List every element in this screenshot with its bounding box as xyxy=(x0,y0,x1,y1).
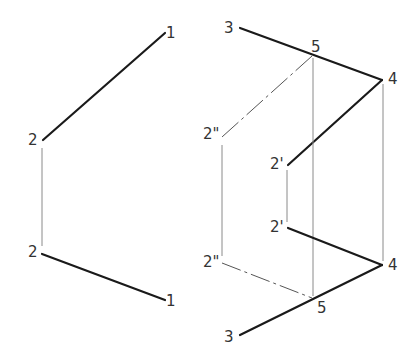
line-2-1-bottom xyxy=(42,254,165,300)
label-4-bottom: 4 xyxy=(388,258,398,273)
label-2-prime-top: 2' xyxy=(270,157,284,172)
label-2-double-prime-bottom: 2" xyxy=(203,255,219,270)
label-5-top: 5 xyxy=(311,40,321,55)
hidden-line-2pp-5-bottom xyxy=(222,263,312,298)
line-2p-4-bottom xyxy=(288,228,382,265)
label-1-top: 1 xyxy=(166,26,176,41)
line-4-5-3-bottom xyxy=(240,265,382,335)
line-4-2p-top xyxy=(288,80,382,165)
line-2-1-top xyxy=(43,33,165,140)
label-2-top: 2 xyxy=(28,133,38,148)
label-2-double-prime-top: 2" xyxy=(203,127,219,142)
label-2-prime-bottom: 2' xyxy=(270,220,284,235)
label-3-top: 3 xyxy=(224,21,234,36)
left-view xyxy=(42,33,165,300)
right-view xyxy=(222,28,383,335)
label-1-bottom: 1 xyxy=(166,294,176,309)
label-2-bottom: 2 xyxy=(28,245,38,260)
label-4-top: 4 xyxy=(388,72,398,87)
projection-diagram xyxy=(0,0,416,362)
label-5-bottom: 5 xyxy=(317,301,327,316)
hidden-line-5-2pp-top xyxy=(222,56,312,137)
label-3-bottom: 3 xyxy=(224,330,234,345)
